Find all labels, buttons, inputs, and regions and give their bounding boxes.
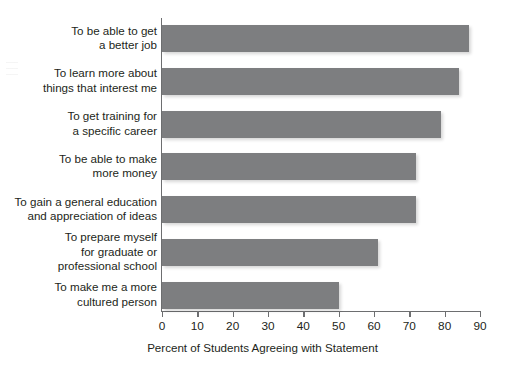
bar — [162, 68, 459, 95]
x-tick-mark — [445, 311, 446, 317]
x-tick-mark — [409, 311, 410, 317]
category-label: To learn more about things that interest… — [0, 66, 157, 95]
x-tick-mark — [480, 311, 481, 317]
category-label: To get training for a specific career — [0, 109, 157, 138]
x-tick-label: 0 — [142, 319, 182, 333]
bar-fill — [162, 25, 469, 52]
bar — [162, 196, 416, 223]
x-tick-label: 10 — [177, 319, 217, 333]
x-tick-label: 80 — [425, 319, 465, 333]
bar — [162, 111, 441, 138]
bar-fill — [162, 111, 441, 138]
bar — [162, 153, 416, 180]
x-tick-label: 60 — [354, 319, 394, 333]
x-axis-title-text: Percent of Students Agreeing with Statem… — [147, 341, 378, 354]
x-tick-mark — [233, 311, 234, 317]
category-label: To prepare myself for graduate or profes… — [0, 230, 157, 273]
x-tick-mark — [374, 311, 375, 317]
bar-fill — [162, 153, 416, 180]
bar-fill — [162, 282, 339, 309]
x-tick-mark — [162, 311, 163, 317]
x-axis-line — [161, 311, 481, 312]
x-tick-label: 30 — [248, 319, 288, 333]
x-tick-label: 90 — [460, 319, 500, 333]
category-label: To make me a more cultured person — [0, 280, 157, 309]
x-tick-label: 20 — [213, 319, 253, 333]
x-tick-label: 40 — [283, 319, 323, 333]
bar-fill — [162, 68, 459, 95]
bar — [162, 282, 339, 309]
bar-fill — [162, 196, 416, 223]
x-axis-title: Percent of Students Agreeing with Statem… — [0, 341, 507, 354]
category-label: To be able to make more money — [0, 152, 157, 181]
x-tick-label: 70 — [389, 319, 429, 333]
bar — [162, 239, 378, 266]
category-label: To gain a general education and apprecia… — [0, 195, 157, 224]
bar — [162, 25, 469, 52]
x-tick-mark — [268, 311, 269, 317]
bar-fill — [162, 239, 378, 266]
category-label: To be able to get a better job — [0, 24, 157, 53]
x-tick-mark — [303, 311, 304, 317]
x-tick-mark — [197, 311, 198, 317]
bar-chart: To be able to get a better jobTo learn m… — [0, 0, 507, 372]
x-tick-label: 50 — [319, 319, 359, 333]
x-tick-mark — [339, 311, 340, 317]
